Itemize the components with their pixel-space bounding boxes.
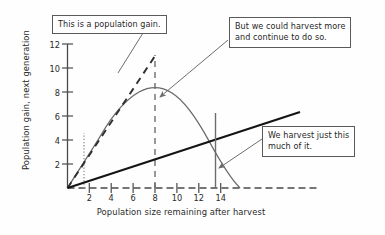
y-tick-label: 2: [44, 160, 60, 170]
population-gain-curve: [68, 88, 241, 188]
y-tick-label: 10: [44, 64, 60, 74]
annotation-line: and continue to do so.: [235, 32, 345, 43]
x-tick-label: 2: [80, 193, 98, 203]
annotation-harvest-amount: We harvest just this much of it.: [262, 126, 355, 157]
x-tick-label: 8: [146, 193, 164, 203]
leader-harvest-amount: [219, 139, 262, 168]
leader-harvest-more: [160, 40, 228, 97]
y-tick-label: 6: [44, 112, 60, 122]
y-axis-label: Population gain, next generation: [21, 25, 31, 175]
x-tick-label: 10: [168, 193, 186, 203]
annotation-line: But we could harvest more: [235, 21, 345, 32]
leader-population-gain: [118, 33, 143, 73]
x-tick-label: 14: [212, 193, 230, 203]
annotation-line: much of it.: [268, 141, 349, 152]
y-tick-label: 4: [44, 136, 60, 146]
x-tick-label: 12: [190, 193, 208, 203]
annotation-line: This is a population gain.: [58, 19, 161, 30]
annotation-population-gain: This is a population gain.: [52, 15, 167, 34]
x-tick-label: 6: [124, 193, 142, 203]
x-axis-label: Population size remaining after harvest: [56, 207, 306, 217]
y-tick-label: 12: [44, 40, 60, 50]
y-tick-label: 8: [44, 88, 60, 98]
annotation-harvest-more: But we could harvest more and continue t…: [229, 17, 351, 48]
x-tick-label: 4: [102, 193, 120, 203]
max-gain-ray: [68, 56, 156, 188]
annotation-line: We harvest just this: [268, 130, 349, 141]
figure-canvas: Population gain, next generation Populat…: [0, 0, 385, 235]
